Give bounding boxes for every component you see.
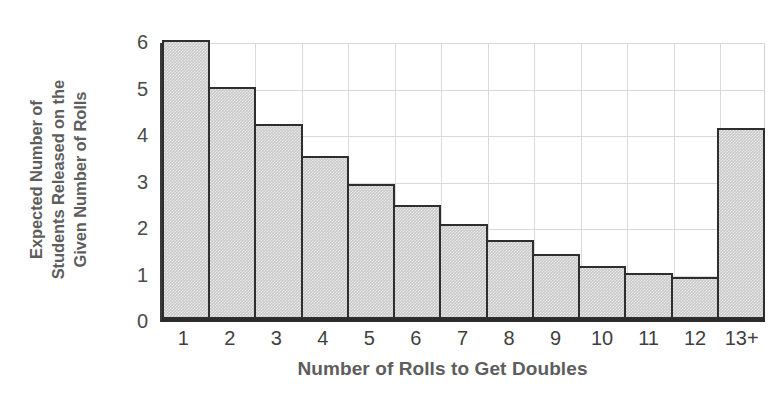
y-axis-tick-label: 2	[118, 218, 148, 238]
bar	[347, 184, 395, 319]
bar	[254, 124, 302, 319]
bar	[624, 273, 672, 320]
bar	[208, 87, 256, 320]
x-axis-tick-label: 8	[486, 328, 533, 348]
y-axis-title: Expected Number of Students Released on …	[0, 0, 118, 360]
x-axis-tick-label: 6	[393, 328, 440, 348]
x-axis-tick-label: 10	[579, 328, 626, 348]
bar	[578, 266, 626, 319]
x-axis-tick-label: 5	[346, 328, 393, 348]
y-axis-title-text: Expected Number of Students Released on …	[26, 80, 91, 279]
x-axis-title: Number of Rolls to Get Doubles	[120, 358, 765, 380]
bar	[393, 205, 441, 319]
x-axis-tick-label: 12	[672, 328, 719, 348]
y-axis-tick-label: 4	[118, 125, 148, 145]
x-axis-tick-label: 1	[160, 328, 207, 348]
plot-area	[160, 43, 765, 322]
x-axis-tick-label: 11	[625, 328, 672, 348]
x-axis-tick-label: 7	[439, 328, 486, 348]
bar-series	[162, 43, 765, 319]
y-axis-title-line-2: Students Released on the	[48, 80, 70, 279]
bar	[162, 40, 210, 319]
bar	[671, 277, 719, 319]
bar	[301, 156, 349, 319]
x-axis-tick-labels: 12345678910111213+	[160, 328, 765, 348]
x-axis-tick-label: 13+	[718, 328, 765, 348]
y-axis-title-line-3: Given Number of Rolls	[70, 80, 92, 279]
y-axis-tick-label: 0	[118, 311, 148, 331]
y-axis-tick-label: 5	[118, 79, 148, 99]
x-axis-tick-label: 3	[253, 328, 300, 348]
bar	[486, 240, 534, 319]
y-axis-tick-label: 3	[118, 172, 148, 192]
x-axis-tick-label: 2	[207, 328, 254, 348]
y-axis-tick-label: 6	[118, 32, 148, 52]
chart-figure: Expected Number of Students Released on …	[0, 0, 783, 403]
bar	[717, 128, 765, 319]
x-axis-tick-label: 9	[532, 328, 579, 348]
x-axis-tick-label: 4	[300, 328, 347, 348]
bar	[532, 254, 580, 319]
bar	[439, 224, 487, 319]
y-axis-tick-label: 1	[118, 265, 148, 285]
y-axis-title-line-1: Expected Number of	[26, 80, 48, 279]
